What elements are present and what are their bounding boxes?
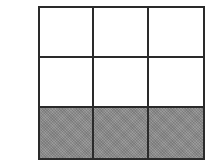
grid-cell-r1-c2 bbox=[94, 8, 148, 58]
three-by-three-grid bbox=[38, 6, 205, 160]
grid-cell-r2-c3 bbox=[149, 58, 203, 108]
grid-cell-r1-c1 bbox=[40, 8, 94, 58]
grid-cell-r2-c1 bbox=[40, 58, 94, 108]
grid-cell-r3-c1-shaded bbox=[40, 108, 94, 158]
grid-cell-r2-c2 bbox=[94, 58, 148, 108]
grid-cell-r3-c2-shaded bbox=[94, 108, 148, 158]
grid-cell-r3-c3-shaded bbox=[149, 108, 203, 158]
grid-cell-r1-c3 bbox=[149, 8, 203, 58]
